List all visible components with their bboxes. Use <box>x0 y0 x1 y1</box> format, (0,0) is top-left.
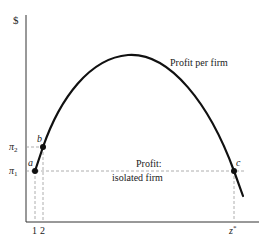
isolated-firm-label-line1: Profit: <box>136 158 162 169</box>
x-tick-2: 2 <box>40 225 45 236</box>
point-a-label: a <box>28 157 33 168</box>
point-b <box>40 144 46 150</box>
point-c-label: c <box>236 157 241 168</box>
x-tick-1: 1 <box>32 225 37 236</box>
x-tick-zstar: z* <box>228 224 237 236</box>
point-a <box>32 168 38 174</box>
point-c <box>231 168 237 174</box>
y-axis-label: $ <box>13 14 19 26</box>
isolated-firm-label-line2: isolated firm <box>112 172 163 183</box>
profit-per-firm-chart: $ a b c π2 π1 1 2 z* Profit per firm Pro… <box>0 0 273 243</box>
pi1-label: π1 <box>9 165 18 178</box>
profit-per-firm-label: Profit per firm <box>170 57 228 68</box>
point-b-label: b <box>37 133 42 144</box>
pi2-label: π2 <box>9 141 18 154</box>
